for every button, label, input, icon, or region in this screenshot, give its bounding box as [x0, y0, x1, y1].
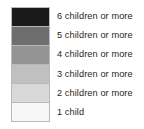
legend-label-list: 6 children or more 5 children or more 4 … [57, 7, 144, 122]
legend-label: 4 children or more [57, 45, 144, 64]
legend-swatch [12, 102, 49, 121]
legend-label: 2 children or more [57, 84, 144, 103]
legend-label: 6 children or more [57, 7, 144, 26]
legend-color-ramp [11, 7, 50, 122]
legend-swatch [12, 64, 49, 83]
legend-swatch [12, 26, 49, 45]
legend-label: 1 child [57, 103, 144, 122]
legend-swatch [12, 45, 49, 64]
map-legend: 6 children or more 5 children or more 4 … [0, 0, 144, 129]
legend-label: 5 children or more [57, 26, 144, 45]
legend-swatch [12, 8, 49, 26]
legend-swatch [12, 83, 49, 102]
legend-label: 3 children or more [57, 65, 144, 84]
